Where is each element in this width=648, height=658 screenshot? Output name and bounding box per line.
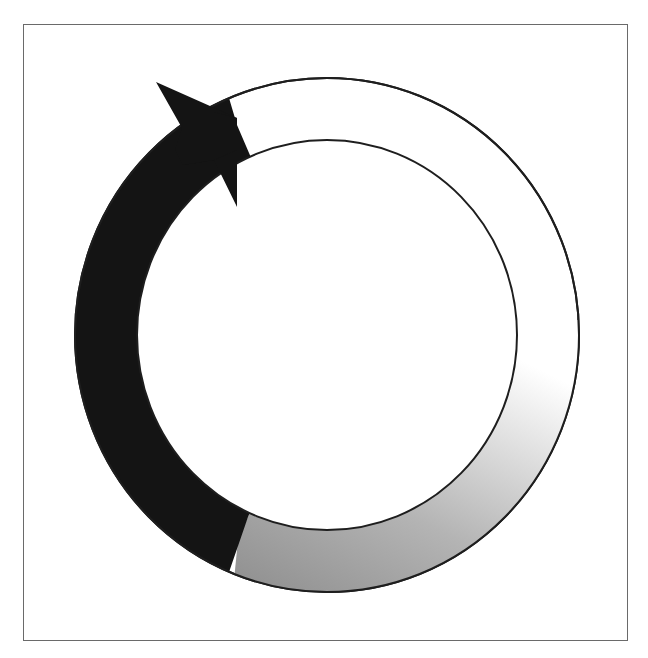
cycle-diagram [0,0,648,658]
inner-ring-outline [137,140,517,530]
